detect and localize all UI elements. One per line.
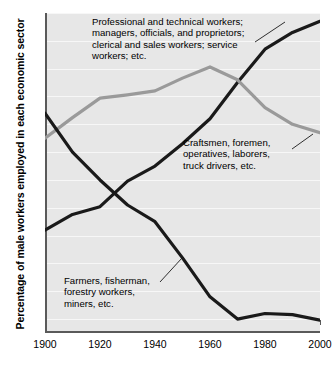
x-tick-label: 1960 (188, 338, 232, 350)
annotation-farm: Farmers, fisherman, forestry workers, mi… (64, 275, 150, 309)
x-tick-label: 2000 (298, 338, 334, 350)
leader-farm (160, 258, 182, 282)
leader-blue-collar (292, 134, 313, 149)
x-axis-tick (320, 320, 321, 325)
y-axis-title: Percentage of male workers employed in e… (14, 9, 30, 339)
x-tick-label: 1980 (243, 338, 287, 350)
x-tick-label: 1900 (23, 338, 67, 350)
series-line-blue-collar (45, 67, 320, 138)
annotation-white-collar: Professional and technical workers; mana… (92, 16, 244, 62)
x-tick-label: 1940 (133, 338, 177, 350)
annotation-blue-collar: Craftsmen, foremen, operatives, laborers… (183, 137, 270, 171)
x-tick-label: 1920 (78, 338, 122, 350)
chart-figure: Percentage of male workers employed in e… (0, 0, 334, 369)
